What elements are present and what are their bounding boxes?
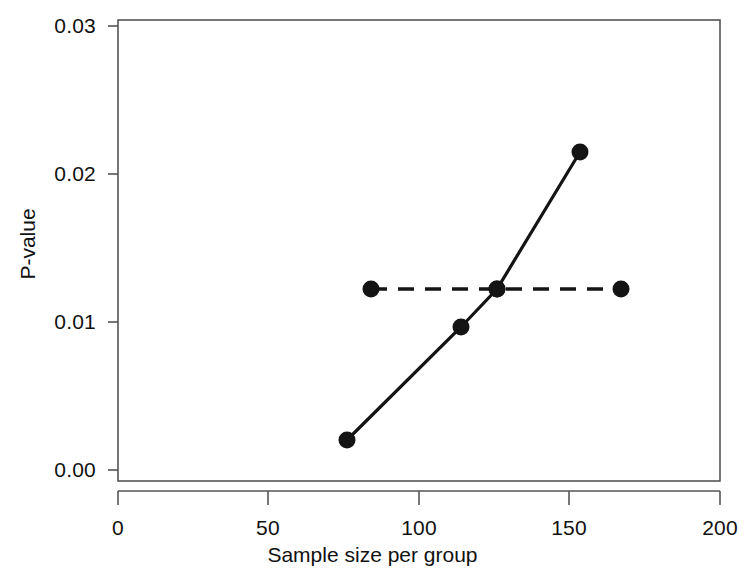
- x-tick-label-200: 200: [702, 516, 738, 540]
- data-point: [613, 281, 630, 298]
- data-point: [363, 281, 380, 298]
- x-tick-label-50: 50: [256, 516, 280, 540]
- series-solid-series: [339, 144, 589, 449]
- solid-series-line: [347, 152, 580, 440]
- data-point: [572, 144, 589, 161]
- x-axis-title: Sample size per group: [0, 543, 745, 567]
- y-axis-ticks: [108, 26, 118, 470]
- x-tick-label-150: 150: [551, 516, 587, 540]
- plot-canvas: [0, 0, 745, 578]
- data-point: [339, 432, 356, 449]
- chart-figure: 0.03 0.02 0.01 0.00 0 50 100 150 200 Sam…: [0, 0, 745, 578]
- y-tick-label-0.03: 0.03: [14, 14, 96, 38]
- x-tick-label-100: 100: [401, 516, 437, 540]
- plot-frame: [118, 20, 720, 481]
- y-axis-title: P-value: [16, 208, 39, 279]
- x-tick-label-0: 0: [112, 516, 124, 540]
- y-tick-label-0.00: 0.00: [14, 458, 96, 482]
- data-point: [489, 281, 506, 298]
- x-axis-ticks: [118, 491, 720, 505]
- data-point: [453, 319, 470, 336]
- y-axis-title-wrapper: P-value: [16, 124, 40, 364]
